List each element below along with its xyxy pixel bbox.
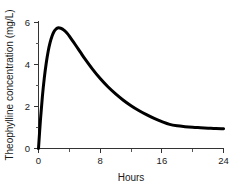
chart-canvas: 0 2 4 6 0 8 16 24 Hours Theophylline con… [0,0,239,187]
x-tick-label-16: 16 [157,155,168,166]
y-tick-label-0: 0 [25,143,30,154]
theophylline-concentration-chart: 0 2 4 6 0 8 16 24 Hours Theophylline con… [0,0,239,187]
x-axis-title: Hours [118,172,145,183]
x-tick-label-24: 24 [218,155,229,166]
y-tick-label-6: 6 [25,17,30,28]
x-tick-label-0: 0 [36,155,41,166]
y-axis-title: Theophylline concentration (mg/L) [4,9,15,160]
x-tick-label-8: 8 [98,155,103,166]
y-tick-label-2: 2 [25,101,30,112]
y-tick-label-4: 4 [25,59,30,70]
